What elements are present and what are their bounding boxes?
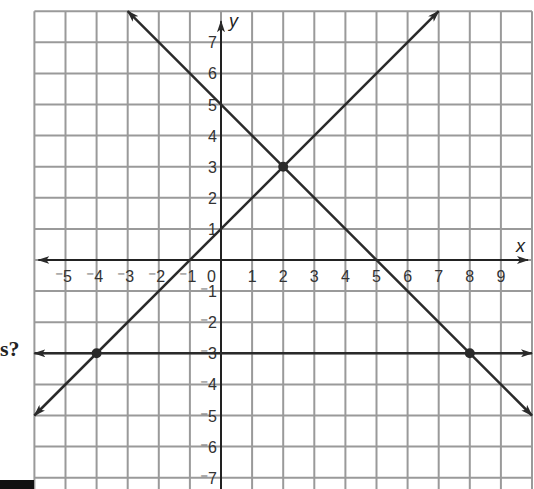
- y-tick-label: 7: [208, 34, 217, 51]
- x-tick-label: 5: [372, 268, 381, 285]
- intersection-point: [92, 348, 102, 358]
- intersection-point: [465, 348, 475, 358]
- coordinate-graph: xy⁻5⁻4⁻3⁻2⁻101234567897654321⁻1⁻2⁻3⁻4⁻5⁻…: [0, 0, 534, 489]
- x-tick-label: ⁻1: [179, 268, 196, 285]
- x-tick-label: 2: [279, 268, 288, 285]
- x-tick-label: 7: [434, 268, 443, 285]
- y-tick-label: 2: [208, 190, 217, 207]
- x-tick-label: 3: [310, 268, 319, 285]
- y-tick-label: ⁻2: [200, 314, 217, 331]
- y-tick-label: 3: [208, 159, 217, 176]
- x-axis-label: x: [515, 236, 526, 256]
- x-tick-label: 6: [403, 268, 412, 285]
- x-tick-label: 9: [496, 268, 505, 285]
- intersection-point: [278, 162, 288, 172]
- y-tick-label: ⁻6: [200, 439, 217, 456]
- x-tick-label: ⁻5: [55, 268, 72, 285]
- y-axis-label: y: [227, 11, 239, 31]
- x-tick-label: ⁻2: [148, 268, 165, 285]
- y-tick-label: ⁻5: [200, 408, 217, 425]
- x-tick-label: 8: [465, 268, 474, 285]
- y-tick-label: 4: [208, 128, 217, 145]
- page-edge-bar: [0, 480, 34, 489]
- y-tick-label: ⁻7: [200, 470, 217, 487]
- question-text-fragment: s?: [0, 336, 20, 362]
- x-tick-label: 1: [248, 268, 257, 285]
- y-tick-label: ⁻1: [200, 283, 217, 300]
- y-tick-label: 6: [208, 65, 217, 82]
- x-tick-label: 4: [341, 268, 350, 285]
- y-tick-label: ⁻4: [200, 376, 217, 393]
- x-tick-label: ⁻4: [86, 268, 103, 285]
- x-tick-label: ⁻3: [117, 268, 134, 285]
